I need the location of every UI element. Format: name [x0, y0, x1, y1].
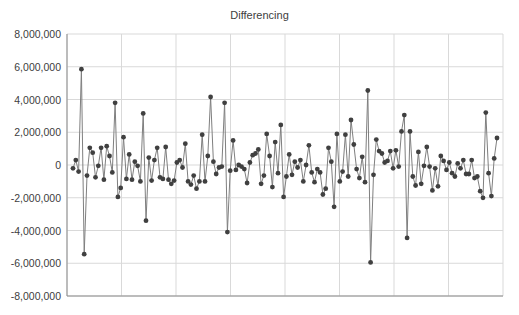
- y-tick-label: -6,000,000: [11, 257, 61, 269]
- data-point-marker: [298, 158, 303, 163]
- data-point-marker: [427, 164, 432, 169]
- data-point-marker: [113, 100, 118, 105]
- data-point-marker: [259, 181, 264, 186]
- data-point-marker: [337, 179, 342, 184]
- data-point-marker: [242, 167, 247, 172]
- data-point-marker: [127, 152, 132, 157]
- data-point-marker: [264, 132, 269, 137]
- data-point-marker: [116, 195, 121, 200]
- data-point-marker: [262, 173, 267, 178]
- y-tick-label: -8,000,000: [11, 290, 61, 302]
- data-point-marker: [422, 163, 427, 168]
- data-point-marker: [189, 182, 194, 187]
- data-point-marker: [99, 145, 104, 150]
- data-point-marker: [436, 184, 441, 189]
- data-point-marker: [93, 175, 98, 180]
- chart-container: Differencing 8,000,0006,000,0004,000,000…: [0, 0, 519, 315]
- data-point-marker: [329, 159, 334, 164]
- data-point-marker: [394, 148, 399, 153]
- data-point-marker: [467, 172, 472, 177]
- data-point-marker: [107, 154, 112, 159]
- data-point-marker: [256, 147, 261, 152]
- data-point-marker: [371, 172, 376, 177]
- data-point-marker: [214, 172, 219, 177]
- data-point-marker: [380, 151, 385, 156]
- data-point-marker: [270, 185, 275, 190]
- data-point-marker: [461, 158, 466, 163]
- data-point-marker: [245, 181, 250, 186]
- data-point-marker: [340, 169, 345, 174]
- data-point-marker: [124, 177, 129, 182]
- data-point-marker: [321, 192, 326, 197]
- data-point-marker: [301, 179, 306, 184]
- data-point-marker: [96, 163, 101, 168]
- data-point-marker: [161, 177, 166, 182]
- data-point-marker: [138, 179, 143, 184]
- data-point-marker: [287, 152, 292, 157]
- data-point-marker: [121, 135, 126, 140]
- data-point-marker: [430, 188, 435, 193]
- data-point-marker: [225, 230, 230, 235]
- data-point-marker: [76, 169, 81, 174]
- data-point-marker: [197, 179, 202, 184]
- data-point-marker: [90, 150, 95, 155]
- data-point-marker: [290, 172, 295, 177]
- data-point-marker: [276, 171, 281, 176]
- data-point-marker: [73, 158, 78, 163]
- data-point-marker: [82, 252, 87, 257]
- data-point-marker: [146, 155, 151, 160]
- y-tick-label: 2,000,000: [14, 126, 61, 138]
- data-point-marker: [475, 174, 480, 179]
- data-point-marker: [481, 195, 486, 200]
- data-point-marker: [343, 132, 348, 137]
- data-point-marker: [424, 145, 429, 150]
- data-point-marker: [132, 159, 137, 164]
- data-point-marker: [253, 151, 258, 156]
- data-point-marker: [419, 181, 424, 186]
- data-point-marker: [483, 110, 488, 115]
- y-tick-label: 4,000,000: [14, 94, 61, 106]
- data-point-marker: [180, 165, 185, 170]
- data-point-marker: [326, 145, 331, 150]
- data-point-marker: [118, 186, 123, 191]
- data-point-marker: [152, 158, 157, 163]
- data-point-marker: [166, 177, 171, 182]
- data-point-marker: [228, 168, 233, 173]
- y-tick-label: 8,000,000: [14, 28, 61, 40]
- data-point-marker: [135, 163, 140, 168]
- data-point-marker: [130, 177, 135, 182]
- data-point-marker: [453, 174, 458, 179]
- data-point-marker: [231, 138, 236, 143]
- data-point-marker: [332, 204, 337, 209]
- data-point-marker: [388, 149, 393, 154]
- data-point-marker: [273, 140, 278, 145]
- data-point-marker: [489, 194, 494, 199]
- data-point-marker: [307, 143, 312, 148]
- data-point-marker: [360, 154, 365, 159]
- data-point-marker: [391, 166, 396, 171]
- data-point-marker: [234, 168, 239, 173]
- data-point-marker: [304, 163, 309, 168]
- data-point-marker: [399, 129, 404, 134]
- data-point-marker: [292, 159, 297, 164]
- data-point-marker: [155, 145, 160, 150]
- data-point-marker: [203, 179, 208, 184]
- data-point-marker: [458, 166, 463, 171]
- data-point-marker: [87, 145, 92, 150]
- data-point-marker: [444, 168, 449, 173]
- y-tick-label: -4,000,000: [11, 225, 61, 237]
- data-point-marker: [208, 95, 213, 100]
- data-point-marker: [194, 186, 199, 191]
- data-point-marker: [222, 100, 227, 105]
- data-point-marker: [410, 174, 415, 179]
- data-point-marker: [110, 170, 115, 175]
- data-point-marker: [368, 260, 373, 265]
- data-point-marker: [219, 164, 224, 169]
- data-point-marker: [349, 118, 354, 123]
- data-point-marker: [318, 170, 323, 175]
- data-point-marker: [177, 158, 182, 163]
- data-point-marker: [309, 170, 314, 175]
- data-point-marker: [278, 123, 283, 128]
- data-point-marker: [85, 173, 90, 178]
- data-point-marker: [191, 173, 196, 178]
